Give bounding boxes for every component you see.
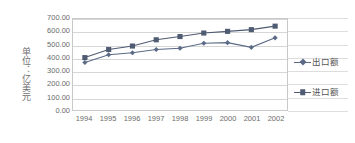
series-layer	[73, 19, 287, 110]
y-tick-label: 600.00	[36, 27, 70, 35]
data-point-diamond	[82, 60, 87, 65]
series-export	[82, 35, 277, 65]
y-tick-label: 100.00	[36, 94, 70, 102]
gridline-extension	[288, 18, 348, 19]
gridline-extension	[288, 45, 348, 46]
y-tick-label: 500.00	[36, 41, 70, 49]
legend-item-export[interactable]: 出口额	[294, 56, 339, 68]
legend-item-import[interactable]: 进口额	[294, 86, 339, 98]
data-point-square	[130, 43, 135, 48]
data-point-square	[225, 29, 230, 34]
plot-area	[72, 18, 288, 111]
legend-label-import: 进口额	[312, 87, 339, 97]
x-tick-label: 1997	[148, 114, 165, 123]
data-point-square	[82, 55, 87, 60]
x-tick-label: 1996	[124, 114, 141, 123]
x-tick-label: 1994	[76, 114, 93, 123]
square-marker-icon	[294, 87, 311, 98]
y-tick-label: 400.00	[36, 54, 70, 62]
data-point-square	[273, 24, 278, 29]
trade-line-chart: 单位：亿美元 700.00600.00500.00400.00300.00200…	[0, 0, 355, 143]
x-tick-label: 2000	[220, 114, 237, 123]
data-point-diamond	[106, 52, 111, 57]
y-axis-title: 单位：亿美元	[11, 38, 31, 110]
data-point-diamond	[225, 40, 230, 45]
diamond-marker-icon	[294, 57, 311, 68]
data-point-diamond	[273, 35, 278, 40]
data-point-diamond	[130, 50, 135, 55]
legend-label-export: 出口额	[312, 57, 339, 67]
gridline-extension	[288, 31, 348, 32]
data-point-diamond	[177, 46, 182, 51]
y-tick-label: 200.00	[36, 80, 70, 88]
x-tick-label: 1998	[172, 114, 189, 123]
gridline-extension	[288, 111, 348, 112]
data-point-square	[201, 30, 206, 35]
series-line	[85, 26, 275, 57]
data-point-diamond	[154, 47, 159, 52]
x-axis-tick-labels: 199419951996199719981999200020012002	[72, 114, 288, 128]
x-tick-label: 2002	[268, 114, 285, 123]
chart-legend: 出口额 进口额	[294, 56, 354, 106]
y-tick-label: 700.00	[36, 14, 70, 22]
data-point-square	[154, 37, 159, 42]
data-point-diamond	[249, 45, 254, 50]
x-tick-label: 2001	[244, 114, 261, 123]
y-tick-label: 300.00	[36, 67, 70, 75]
y-axis-tick-labels: 700.00600.00500.00400.00300.00200.00100.…	[36, 12, 70, 116]
x-tick-label: 1999	[196, 114, 213, 123]
x-tick-label: 1995	[100, 114, 117, 123]
data-point-square	[249, 27, 254, 32]
y-tick-label: 0.00	[36, 107, 70, 115]
data-point-square	[177, 34, 182, 39]
data-point-square	[106, 47, 111, 52]
data-point-diamond	[201, 41, 206, 46]
